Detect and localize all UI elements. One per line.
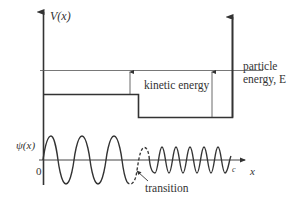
x-axis-label: x	[249, 165, 255, 177]
particle-energy-label-2: energy, E	[243, 73, 286, 86]
psi-axis-label: ψ(x)	[16, 139, 35, 152]
particle-energy-label-1: particle	[243, 60, 277, 73]
transition-label: transition	[145, 182, 189, 194]
potential-panel: V(x) kinetic energy particle energy, E	[40, 9, 286, 185]
kinetic-energy-label: kinetic energy	[144, 79, 209, 92]
x-axis-arrowhead	[240, 158, 246, 163]
potential-step-diagram: V(x) kinetic energy particle energy, E x…	[0, 0, 304, 203]
origin-label: 0	[36, 165, 42, 177]
potential-profile	[44, 20, 233, 118]
v-axis-label: V(x)	[50, 9, 71, 23]
end-label: c	[232, 165, 236, 174]
wavefunction-panel: x ψ(x) 0 c transition	[16, 136, 255, 194]
